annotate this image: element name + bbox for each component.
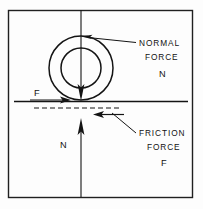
friction-force-symbol: F (161, 158, 167, 168)
friction-force-label-line1: FRICTION (139, 128, 185, 138)
friction-force-figure: NORMAL FORCE N FRICTION FORCE F F N (0, 0, 203, 209)
diagram-canvas: NORMAL FORCE N FRICTION FORCE F F N (0, 0, 203, 209)
friction-force-leader-line (112, 113, 136, 133)
normal-force-label-line1: NORMAL (139, 38, 180, 48)
applied-force-symbol: F (34, 88, 40, 98)
friction-force-label-line2: FORCE (147, 142, 181, 152)
normal-force-label-line2: FORCE (145, 52, 179, 62)
reaction-force-symbol: N (60, 140, 67, 150)
normal-force-symbol: N (159, 69, 166, 79)
